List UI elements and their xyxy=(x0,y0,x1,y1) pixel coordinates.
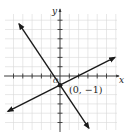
y-axis-label: y xyxy=(51,6,58,16)
chart: (0, −1) x y O xyxy=(0,0,133,136)
grid xyxy=(5,14,117,130)
point-label: (0, −1) xyxy=(69,84,103,95)
intersection-point xyxy=(58,83,62,87)
origin-label: O xyxy=(53,77,59,85)
x-axis-label: x xyxy=(119,75,124,85)
